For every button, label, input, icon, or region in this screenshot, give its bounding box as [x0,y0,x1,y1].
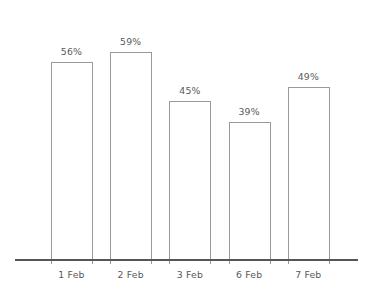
bar-value-label: 56% [61,46,82,57]
bar-value-label: 59% [120,36,141,47]
x-axis-tick-labels: 1 Feb2 Feb3 Feb6 Feb7 Feb [58,269,321,280]
bar-3-feb [170,102,211,261]
bar-chart: 56%59%45%39%49% 1 Feb2 Feb3 Feb6 Feb7 Fe… [0,0,373,300]
x-tick-label: 6 Feb [236,269,262,280]
x-tick-label: 3 Feb [177,269,203,280]
bar-1-feb [52,63,93,261]
x-tick-label: 1 Feb [58,269,84,280]
bar-7-feb [289,88,330,261]
bar-2-feb [111,53,152,261]
bar-value-label: 49% [298,71,319,82]
bar-6-feb [230,123,271,261]
chart-canvas: 56%59%45%39%49% 1 Feb2 Feb3 Feb6 Feb7 Fe… [0,0,373,300]
bar-value-label: 45% [179,85,200,96]
bar-value-label: 39% [238,106,259,117]
x-tick-label: 2 Feb [118,269,144,280]
x-tick-label: 7 Feb [295,269,321,280]
